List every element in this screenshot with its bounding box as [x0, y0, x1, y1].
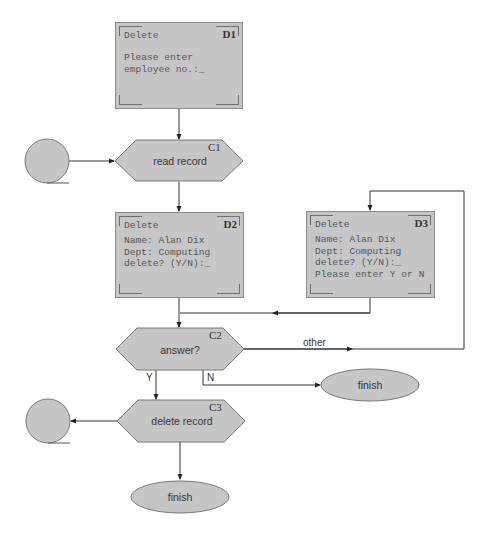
screen-id: D3 [415, 217, 428, 229]
screen-line: Name: Alan Dix [315, 234, 424, 246]
corner-mark [216, 95, 239, 105]
screen-line: delete? (Y/N):_ [315, 257, 424, 269]
corner-mark [119, 284, 142, 294]
screen-line: Please enter [124, 52, 205, 64]
screen-body: Name: Alan DixDept: Computingdelete? (Y/… [315, 234, 424, 280]
screen-d1: Delete D1 Please enteremployee no.:_ [115, 22, 243, 109]
edge-label-other: other [303, 337, 326, 348]
screen-d3: Delete D3 Name: Alan DixDept: Computingd… [306, 211, 435, 298]
terminal-finish-bottom: finish [131, 491, 229, 503]
corner-mark [119, 95, 142, 105]
terminal-finish-right: finish [321, 379, 419, 391]
edge-label-no: N [207, 372, 214, 383]
corner-mark [310, 284, 333, 294]
screen-line: Dept: Computing [315, 246, 424, 258]
process-id: C3 [209, 401, 222, 413]
edge-label-yes: Y [146, 372, 153, 383]
corner-mark [408, 284, 431, 294]
screen-body: Name: Alan DixDept: Computingdelete? (Y/… [124, 235, 210, 270]
process-label-delete-record: delete record [135, 415, 229, 427]
screen-line: delete? (Y/N):_ [124, 258, 210, 270]
process-label-answer: answer? [135, 344, 225, 356]
screen-line: Please enter Y or N [315, 269, 424, 281]
screen-title: Delete [124, 30, 159, 41]
screen-title: Delete [124, 220, 159, 231]
screen-body: Please enteremployee no.:_ [124, 52, 205, 75]
screen-line: Dept: Computing [124, 247, 210, 259]
process-id: C1 [208, 141, 221, 153]
process-label-read-record: read record [135, 155, 225, 167]
screen-id: D1 [223, 28, 236, 40]
screen-id: D2 [224, 218, 237, 230]
corner-mark [217, 284, 240, 294]
screen-line: Name: Alan Dix [124, 235, 210, 247]
process-id: C2 [209, 329, 222, 341]
screen-title: Delete [315, 219, 350, 230]
screen-line: employee no.:_ [124, 64, 205, 76]
screen-d2: Delete D2 Name: Alan DixDept: Computingd… [115, 212, 244, 298]
